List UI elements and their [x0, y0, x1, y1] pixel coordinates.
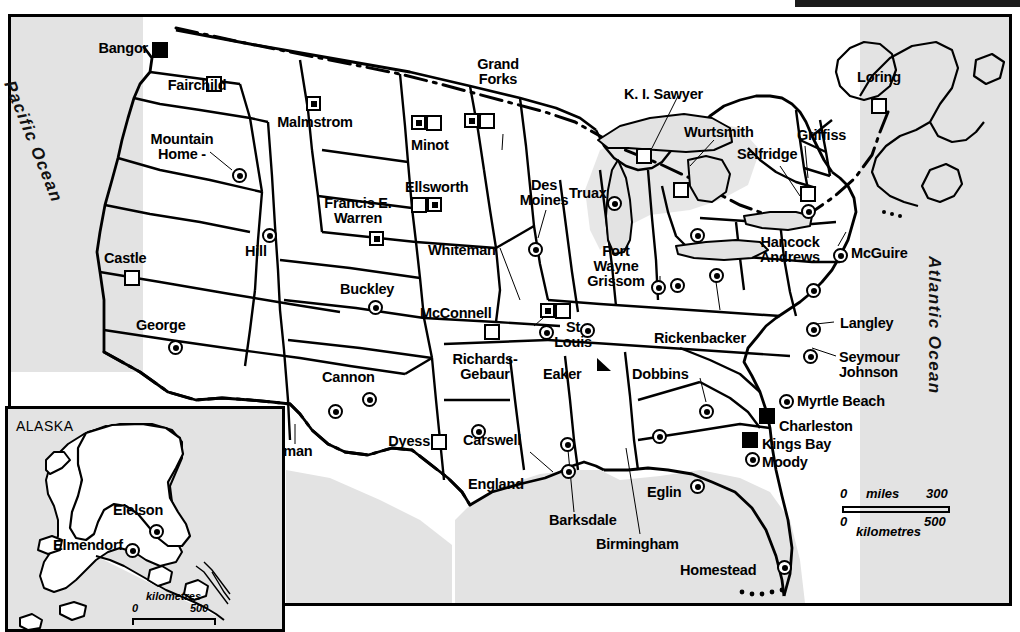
symbol-mountain-home[interactable]	[232, 168, 247, 183]
symbol-elmendorf[interactable]	[125, 543, 140, 558]
symbol-pair-minot[interactable]	[411, 115, 442, 131]
symbol-wurtsmith[interactable]	[673, 182, 689, 198]
label-dyess: Dyess	[388, 434, 430, 449]
label-homestead: Homestead	[680, 563, 756, 578]
label-birmingham: Birmingham	[596, 537, 679, 552]
label-carswell: Carswell	[463, 433, 521, 448]
symbol-charleston[interactable]	[759, 408, 775, 424]
symbol-castle[interactable]	[124, 270, 140, 286]
symbol-moody[interactable]	[745, 452, 760, 467]
label-fort-wayne-grissom: Fort Wayne Grissom	[587, 244, 644, 288]
label-eglin: Eglin	[647, 485, 681, 500]
symbol-ohio-north[interactable]	[690, 228, 705, 243]
label-whiteman: Whiteman	[428, 243, 496, 258]
symbol-pair-st-louis-area[interactable]	[540, 303, 571, 319]
symbol-pair-ellsworth[interactable]	[411, 197, 442, 213]
symbol-grissom-a[interactable]	[651, 280, 666, 295]
symbol-eaker[interactable]	[597, 358, 611, 371]
symbol-buckley[interactable]	[368, 300, 383, 315]
symbol-homestead[interactable]	[777, 560, 792, 575]
label-francis-e-warren: Francis E. Warren	[324, 196, 391, 226]
label-cannon: Cannon	[322, 370, 375, 385]
label-mcguire: McGuire	[851, 246, 908, 261]
symbol-fort-wayne[interactable]	[709, 268, 724, 283]
label-selfridge: Selfridge	[737, 147, 797, 162]
map-page: Pacific Ocean Atlantic Ocean	[0, 0, 1020, 632]
symbol-seymour-johnson[interactable]	[803, 349, 818, 364]
scale-bar-km	[842, 506, 950, 513]
symbol-loring[interactable]	[871, 98, 887, 114]
symbol-ellsworth-missile[interactable]	[427, 197, 442, 212]
symbol-malmstrom[interactable]	[306, 96, 321, 111]
symbol-stlouis-missile[interactable]	[540, 303, 555, 318]
alaska-scale-bar-line	[132, 618, 216, 625]
label-malmstrom: Malmstrom	[277, 115, 353, 130]
symbol-minot-afb[interactable]	[426, 115, 442, 131]
symbol-truax[interactable]	[607, 196, 622, 211]
atlantic-ocean-label: Atlantic Ocean	[924, 256, 944, 395]
symbol-eielson[interactable]	[149, 524, 164, 539]
symbol-pair-grand-forks[interactable]	[464, 113, 495, 129]
label-castle: Castle	[104, 251, 146, 266]
scale-miles-unit: miles	[866, 486, 899, 501]
label-rickenbacker: Rickenbacker	[654, 331, 746, 346]
symbol-hill[interactable]	[262, 228, 277, 243]
label-seymour-johnson: Seymour Johnson	[839, 350, 900, 380]
symbol-bangor[interactable]	[152, 42, 168, 58]
label-des-moines: Des Moines	[520, 178, 569, 208]
symbol-ellsworth-afb[interactable]	[411, 197, 427, 213]
symbol-hancock-andrews[interactable]	[806, 283, 821, 298]
symbol-dyess[interactable]	[431, 434, 447, 450]
symbol-mcguire[interactable]	[833, 248, 848, 263]
symbol-grissom-b[interactable]	[670, 278, 685, 293]
label-england: England	[468, 477, 524, 492]
symbol-rickenbacker[interactable]	[806, 322, 821, 337]
label-wurtsmith: Wurtsmith	[684, 125, 754, 140]
scale-km-min: 0	[840, 514, 847, 529]
symbol-mcconnell[interactable]	[484, 324, 500, 340]
label-richards-gebaur: Richards- Gebaur	[452, 352, 517, 382]
label-griffiss: Griffiss	[797, 128, 846, 143]
symbol-stlouis-afb[interactable]	[555, 303, 571, 319]
label-eielson: Eielson	[113, 503, 163, 518]
symbol-barksdale[interactable]	[561, 464, 576, 479]
map-scale-bar: 0 miles 300 0 kilometres 500	[838, 486, 960, 542]
symbol-minot-missile[interactable]	[411, 115, 426, 130]
label-ellsworth: Ellsworth	[405, 180, 468, 195]
label-loring: Loring	[857, 70, 901, 85]
label-george: George	[136, 318, 186, 333]
symbol-myrtle-beach[interactable]	[779, 394, 794, 409]
symbol-francis-e-warren[interactable]	[369, 231, 384, 246]
symbol-kings-bay[interactable]	[742, 432, 758, 448]
label-minot: Minot	[411, 138, 449, 153]
alaska-scale-max: 500	[190, 602, 208, 614]
symbol-grand-forks-afb[interactable]	[479, 113, 495, 129]
coast-detail-dots	[882, 210, 902, 218]
symbol-richards-gebaur[interactable]	[539, 325, 554, 340]
symbol-holloman[interactable]	[328, 404, 343, 419]
symbol-george[interactable]	[168, 340, 183, 355]
symbol-dobbins[interactable]	[699, 404, 714, 419]
symbol-grand-forks-missile[interactable]	[464, 113, 479, 128]
symbol-birmingham[interactable]	[652, 429, 667, 444]
label-hill: Hill	[245, 244, 267, 259]
label-kings-bay: Kings Bay	[762, 437, 831, 452]
alaska-scale-min: 0	[132, 602, 138, 614]
label-bangor: Bangor	[98, 41, 148, 56]
scale-km-unit: kilometres	[856, 524, 921, 539]
symbol-selfridge[interactable]	[801, 204, 816, 219]
symbol-whiteman[interactable]	[528, 242, 543, 257]
symbol-ki-sawyer[interactable]	[636, 148, 652, 164]
symbol-eglin[interactable]	[690, 479, 705, 494]
label-truax: Truax	[569, 186, 607, 201]
symbol-cannon[interactable]	[362, 392, 377, 407]
label-charleston: Charleston	[779, 419, 853, 434]
alaska-inset-title: ALASKA	[16, 418, 73, 434]
label-dobbins: Dobbins	[632, 367, 689, 382]
symbol-england[interactable]	[560, 437, 575, 452]
symbol-griffiss[interactable]	[800, 186, 816, 202]
label-hancock-andrews: Hancock Andrews	[760, 235, 820, 265]
label-fairchild: Fairchild	[168, 78, 227, 93]
label-langley: Langley	[840, 316, 893, 331]
label-myrtle-beach: Myrtle Beach	[797, 394, 885, 409]
